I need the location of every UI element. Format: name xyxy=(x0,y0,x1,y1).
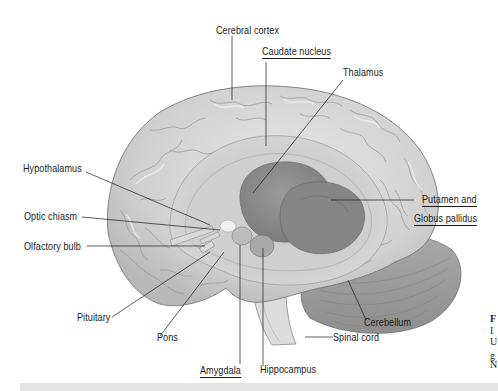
caption-fragment: U xyxy=(490,337,497,347)
label-thalamus: Thalamus xyxy=(343,66,383,78)
label-pituitary: Pituitary xyxy=(77,311,110,323)
label-spinal-cord: Spinal cord xyxy=(333,331,379,343)
label-cerebral-cortex: Cerebral cortex xyxy=(216,24,279,36)
label-globus-pallidus: Globus pallidus xyxy=(414,212,477,226)
label-olfactory-bulb: Olfactory bulb xyxy=(24,240,81,252)
label-hippocampus: Hippocampus xyxy=(260,363,316,375)
label-amygdala: Amygdala xyxy=(200,364,241,378)
label-putamen: Putamen and xyxy=(422,193,477,207)
caption-fragment: I xyxy=(490,326,493,336)
label-caudate-nucleus: Caudate nucleus xyxy=(262,45,331,59)
footer-bar xyxy=(20,383,498,391)
label-optic-chiasm: Optic chiasm xyxy=(24,210,77,222)
caption-fragment: N xyxy=(490,360,497,370)
caption-fragment: F xyxy=(490,314,496,324)
label-hypothalamus: Hypothalamus xyxy=(23,162,82,174)
brain-diagram: Cerebral cortex Caudate nucleus Thalamus… xyxy=(0,0,498,391)
label-cerebellum: Cerebellum xyxy=(364,316,411,328)
label-pons: Pons xyxy=(157,331,178,343)
